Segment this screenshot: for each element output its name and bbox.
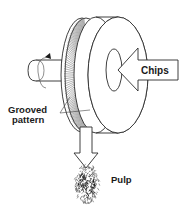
pulp-fiber bbox=[90, 191, 91, 193]
pulp-fiber bbox=[94, 188, 95, 189]
pulp-fiber bbox=[85, 164, 86, 165]
chips-label: Chips bbox=[141, 65, 169, 76]
pulp-fiber bbox=[82, 184, 83, 186]
pulp-fiber bbox=[80, 171, 81, 172]
pulp-fiber bbox=[78, 188, 79, 189]
pulp-fiber bbox=[99, 184, 100, 186]
pulp-fiber bbox=[88, 180, 89, 181]
pulp-fiber bbox=[87, 202, 88, 204]
pulp-fiber bbox=[94, 175, 95, 178]
pulp-fiber bbox=[97, 192, 98, 193]
drive-shaft bbox=[28, 60, 62, 81]
pulp-fiber bbox=[89, 180, 90, 182]
pulp-fiber bbox=[84, 173, 85, 176]
pulp-fiber bbox=[88, 176, 89, 177]
pulp-fiber bbox=[96, 192, 97, 194]
pulp-fiber bbox=[83, 186, 84, 188]
pulp-fiber bbox=[80, 198, 81, 200]
pulp-fiber bbox=[86, 175, 87, 176]
grooved-pattern-label-line2: pattern bbox=[12, 114, 44, 125]
pulp-fibers bbox=[74, 164, 100, 204]
pulp-fiber bbox=[74, 177, 75, 179]
pulp-fiber bbox=[77, 194, 78, 197]
pulp-fiber bbox=[81, 166, 82, 167]
pulp-fiber bbox=[81, 167, 82, 168]
pulp-fiber bbox=[92, 175, 93, 176]
pulp-fiber bbox=[85, 177, 86, 179]
pulp-fiber bbox=[90, 182, 92, 184]
pulp-fiber bbox=[83, 168, 84, 171]
pulp-fiber bbox=[84, 169, 85, 170]
pulp-fiber bbox=[91, 174, 92, 176]
pulp-fiber bbox=[95, 181, 96, 182]
pulp-fiber bbox=[79, 178, 80, 181]
pulp-fiber bbox=[87, 200, 88, 201]
refiner-diagram: Chips Grooved pattern Pulp bbox=[0, 0, 184, 217]
pulp-fiber bbox=[76, 179, 78, 181]
pulp-fiber bbox=[90, 171, 91, 172]
pulp-label: Pulp bbox=[111, 174, 132, 185]
pulp-fiber bbox=[99, 180, 100, 181]
pulp-fiber bbox=[97, 188, 99, 191]
pulp-fiber bbox=[77, 175, 78, 178]
pulp-fiber bbox=[87, 173, 89, 175]
pulp-fiber bbox=[96, 175, 97, 178]
pulp-fiber bbox=[93, 200, 94, 202]
pulp-fiber bbox=[90, 202, 91, 204]
pulp-fiber bbox=[90, 178, 91, 179]
pulp-fiber bbox=[86, 191, 87, 194]
pulp-fiber bbox=[95, 170, 96, 171]
pulp-fiber bbox=[82, 176, 83, 179]
pulp-fiber bbox=[84, 195, 85, 198]
pulp-fiber bbox=[86, 195, 87, 197]
pulp-fiber bbox=[96, 174, 97, 175]
pulp-fiber bbox=[90, 198, 91, 199]
pulp-fiber bbox=[82, 193, 83, 194]
